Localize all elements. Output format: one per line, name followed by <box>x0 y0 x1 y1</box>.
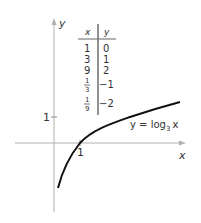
x-tick-label-1: 1 <box>77 146 84 159</box>
table-cell-y: 2 <box>103 65 109 76</box>
y-axis-arrow-icon <box>52 18 57 25</box>
y-tick-label-1: 1 <box>43 111 50 124</box>
function-label: y = log3x <box>130 119 178 133</box>
table-cell-x-numerator: 1 <box>85 77 89 85</box>
table-cell-x: 3 <box>84 54 90 65</box>
y-axis-label: y <box>58 17 66 30</box>
log-graph: y x 1 1 y = log3x x y 1 0 3 1 9 2 1 3 −1… <box>0 0 201 223</box>
table-cell-x: 1 <box>84 43 90 54</box>
table-cell-y: −1 <box>99 79 114 90</box>
table-cell-x: 9 <box>84 65 90 76</box>
table-cell-x-denominator: 3 <box>85 86 89 94</box>
table-cell-y: −2 <box>99 98 114 109</box>
table-cell-y: 0 <box>103 43 109 54</box>
table-cell-x-numerator: 1 <box>85 96 89 104</box>
x-axis-label: x <box>178 149 186 162</box>
x-axis-arrow-icon <box>179 141 186 146</box>
table-header-y: y <box>103 27 110 37</box>
values-table: x y 1 0 3 1 9 2 1 3 −1 1 9 −2 <box>78 24 116 115</box>
table-header-x: x <box>84 27 91 37</box>
log-curve <box>58 102 180 188</box>
table-cell-y: 1 <box>103 54 109 65</box>
table-cell-x-denominator: 9 <box>85 105 89 113</box>
